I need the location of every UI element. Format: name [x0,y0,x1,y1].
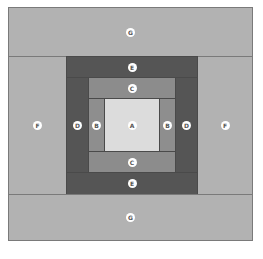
label-e: E [128,63,137,72]
label-b: B [92,121,101,130]
piece-c-top: C [88,77,176,99]
label-d: D [73,121,82,130]
piece-d-left: D [66,77,89,173]
piece-b-left: B [88,98,105,152]
label-c: C [128,158,137,167]
label-c: C [128,84,137,93]
piece-g-bottom: G [8,194,253,241]
piece-d-right: D [175,77,198,173]
label-f: F [221,121,230,130]
piece-b-right: B [159,98,176,152]
label-e: E [128,179,137,188]
piece-f-left: F [8,56,67,195]
label-g: G [126,213,135,222]
piece-c-bottom: C [88,151,176,173]
label-d: D [182,121,191,130]
piece-g-top: G [8,7,253,57]
piece-e-bottom: E [66,172,198,195]
piece-e-top: E [66,56,198,78]
label-b: B [163,121,172,130]
label-g: G [126,28,135,37]
piece-a-center: A [104,98,160,152]
label-a: A [128,121,137,130]
piece-f-right: F [197,56,253,195]
label-f: F [33,121,42,130]
